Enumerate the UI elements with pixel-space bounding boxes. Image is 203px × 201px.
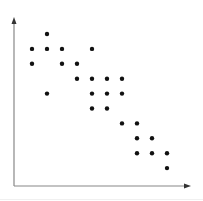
data-point [120,91,124,95]
data-point [150,136,154,140]
data-point [105,77,109,81]
data-point [135,136,139,140]
x-axis [14,184,191,189]
data-point [90,106,94,110]
data-point [60,62,64,66]
bottom-divider [0,199,203,200]
scatter-chart [0,0,203,201]
y-axis-arrow-icon [12,17,17,24]
data-point [90,47,94,51]
data-point [165,151,169,155]
data-point [135,151,139,155]
data-point [45,47,49,51]
y-axis [12,17,17,186]
data-point [45,32,49,36]
data-point [120,121,124,125]
data-point [105,106,109,110]
data-point [165,166,169,170]
data-point [45,91,49,95]
data-point [90,91,94,95]
data-point [30,62,34,66]
x-axis-arrow-icon [184,184,191,189]
data-points [30,32,169,171]
data-point [75,77,79,81]
data-point [105,91,109,95]
data-point [60,47,64,51]
data-point [75,62,79,66]
data-point [30,47,34,51]
data-point [150,151,154,155]
data-point [120,77,124,81]
data-point [90,77,94,81]
data-point [135,121,139,125]
